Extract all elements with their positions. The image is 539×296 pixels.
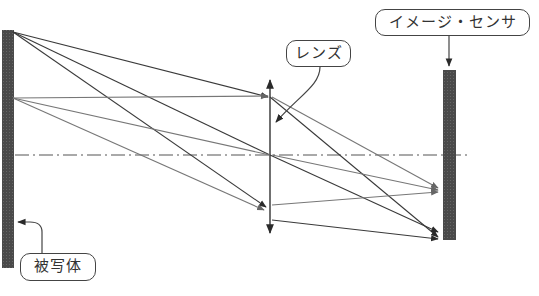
image-sensor-bar <box>443 70 456 240</box>
object-callout-leader <box>18 222 42 253</box>
image-sensor-label: イメージ・センサ <box>375 9 530 36</box>
optical-diagram <box>0 0 539 296</box>
rays-mid-point <box>13 96 438 210</box>
rays-top-point <box>13 32 438 239</box>
object-label: 被写体 <box>20 253 96 281</box>
lens-callout-leader <box>276 67 320 122</box>
object-bar <box>2 30 14 268</box>
lens-label: レンズ <box>286 40 351 67</box>
